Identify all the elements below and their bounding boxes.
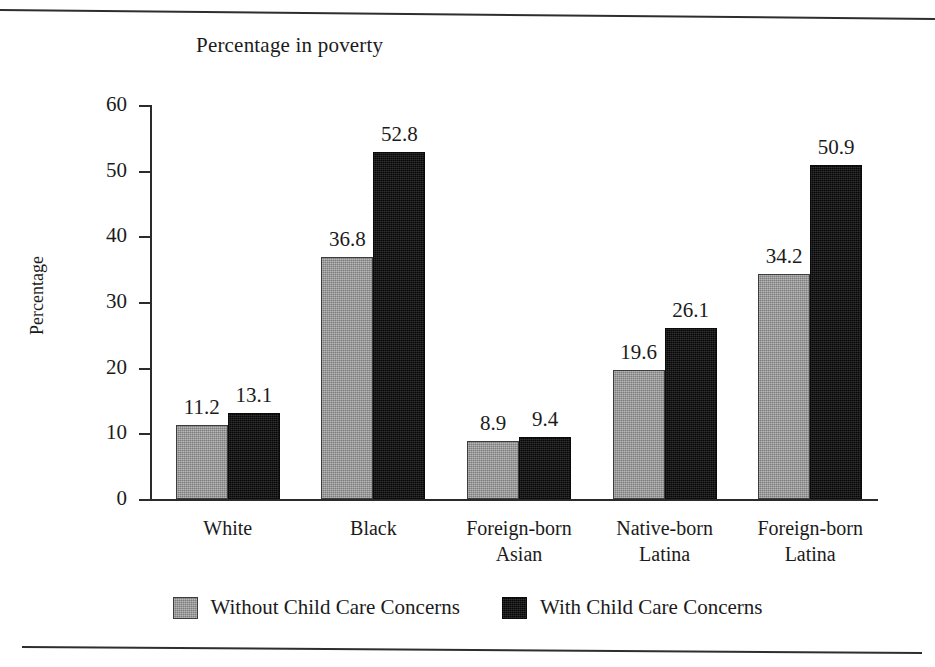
y-tick: 0 xyxy=(139,499,150,501)
y-axis-label: Percentage xyxy=(27,236,48,356)
bar: 50.9 xyxy=(810,165,862,499)
bar: 34.2 xyxy=(758,274,810,499)
bar: 13.1 xyxy=(228,413,280,499)
bar: 9.4 xyxy=(519,437,571,499)
y-tick: 10 xyxy=(139,433,150,435)
y-tick-label: 20 xyxy=(106,355,127,380)
category-label: Foreign-bornLatina xyxy=(737,515,883,567)
bar-value-label: 50.9 xyxy=(818,135,855,160)
y-tick-label: 60 xyxy=(106,92,127,117)
legend-swatch-dark xyxy=(502,597,527,619)
y-tick: 50 xyxy=(139,171,150,173)
category-label-line: Foreign-born xyxy=(446,515,592,541)
bar: 26.1 xyxy=(665,328,717,499)
chart-legend: Without Child Care ConcernsWith Child Ca… xyxy=(0,595,935,620)
bar-value-label: 9.4 xyxy=(532,407,558,432)
category-label-line: Foreign-born xyxy=(737,515,883,541)
legend-swatch-light xyxy=(173,597,198,619)
chart-title: Percentage in poverty xyxy=(196,33,383,58)
y-tick-label: 40 xyxy=(106,223,127,248)
bar-value-label: 13.1 xyxy=(235,383,272,408)
category-label-line: Latina xyxy=(592,541,738,567)
page-rule-top xyxy=(0,9,935,20)
category-label: Native-bornLatina xyxy=(592,515,738,567)
y-tick: 20 xyxy=(139,368,150,370)
category-label-line: Latina xyxy=(737,541,883,567)
legend-item[interactable]: Without Child Care Concerns xyxy=(173,595,460,620)
legend-label: Without Child Care Concerns xyxy=(211,595,460,620)
category-label-line: Asian xyxy=(446,541,592,567)
category-label: Black xyxy=(301,515,447,541)
y-tick: 60 xyxy=(139,105,150,107)
bar: 11.2 xyxy=(176,425,228,499)
y-tick-label: 30 xyxy=(106,289,127,314)
bar: 19.6 xyxy=(613,370,665,499)
bar-value-label: 26.1 xyxy=(672,298,709,323)
category-label: White xyxy=(155,515,301,541)
bar-value-label: 36.8 xyxy=(329,227,366,252)
bar: 52.8 xyxy=(373,152,425,499)
y-axis-line xyxy=(150,105,152,501)
bar-value-label: 8.9 xyxy=(480,411,506,436)
bar-value-label: 52.8 xyxy=(381,122,418,147)
bar: 36.8 xyxy=(321,257,373,499)
y-tick-label: 0 xyxy=(117,486,128,511)
bar-value-label: 34.2 xyxy=(766,244,803,269)
y-tick-label: 10 xyxy=(106,420,127,445)
legend-label: With Child Care Concerns xyxy=(540,595,763,620)
category-label: Foreign-bornAsian xyxy=(446,515,592,567)
x-axis-line xyxy=(150,499,878,501)
y-tick-label: 50 xyxy=(106,158,127,183)
y-tick: 30 xyxy=(139,302,150,304)
category-label-line: Black xyxy=(301,515,447,541)
bar-value-label: 11.2 xyxy=(184,395,220,420)
bar-value-label: 19.6 xyxy=(620,340,657,365)
plot-area: 0102030405060 11.213.136.852.88.99.419.6… xyxy=(150,105,878,501)
bar: 8.9 xyxy=(467,441,519,499)
category-label-line: White xyxy=(155,515,301,541)
legend-item[interactable]: With Child Care Concerns xyxy=(502,595,763,620)
page-rule-bottom xyxy=(22,646,922,654)
category-label-line: Native-born xyxy=(592,515,738,541)
y-tick: 40 xyxy=(139,236,150,238)
